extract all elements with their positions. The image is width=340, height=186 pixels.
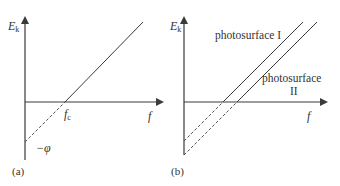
- label-photosurface-2-line2: II: [290, 86, 298, 98]
- y-axis-label-a: Ek: [8, 20, 19, 34]
- x-axis-label-b: f: [307, 110, 310, 122]
- panel-label-b: (b): [171, 166, 184, 177]
- y-axis-label-b: Ek: [170, 20, 181, 34]
- panel-label-a: (a): [12, 166, 24, 177]
- extrapolation-photosurface-2: [184, 102, 237, 155]
- ek-line-a: [65, 22, 143, 102]
- ek-extrapolation-a: [25, 102, 65, 142]
- threshold-frequency-label: fc: [64, 108, 71, 122]
- ek-subscript: k: [15, 25, 19, 34]
- label-photosurface-2-line1: photosurface: [262, 73, 321, 85]
- ek-subscript-b: k: [177, 25, 181, 34]
- panel-a: [25, 18, 162, 160]
- label-photosurface-1: photosurface I: [215, 30, 281, 42]
- x-axis-label-a: f: [148, 110, 151, 122]
- work-function-intercept-label: −φ: [36, 142, 51, 154]
- fc-subscript: c: [67, 113, 71, 122]
